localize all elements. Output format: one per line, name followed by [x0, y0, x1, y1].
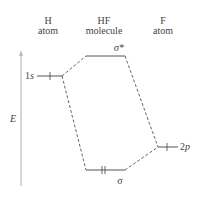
energy-axis: [19, 50, 23, 186]
h-atom-subtitle: atom: [38, 25, 58, 36]
hf-molecule-subtitle: molecule: [86, 25, 123, 36]
f-atom-subtitle: atom: [153, 25, 173, 36]
correlation-lines: [62, 56, 158, 170]
mo-diagram: H atom HF molecule F atom E 1s σ* σ 2p: [0, 0, 198, 197]
f-2p-label: 2p: [180, 141, 190, 152]
energy-axis-label: E: [9, 113, 16, 124]
arrow-up-icon: [19, 50, 23, 56]
h-1s-label: 1s: [25, 70, 34, 81]
sigma-label: σ: [117, 175, 123, 186]
sigma-star-label: σ*: [114, 42, 124, 53]
